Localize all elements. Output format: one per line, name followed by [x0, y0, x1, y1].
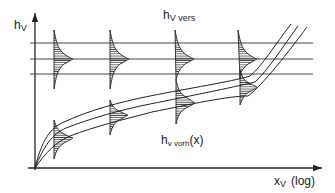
lower-distributions: [54, 70, 257, 159]
distribution-upper-3: [175, 30, 194, 80]
y-axis-label: hV: [14, 18, 27, 33]
labels: hV hV vers hv vorh(x) xV(log): [14, 8, 315, 189]
existing-height-label: hv vorh(x): [161, 133, 203, 148]
distribution-upper-4: [238, 30, 257, 78]
diagram-canvas: hV hV vers hv vorh(x) xV(log): [0, 0, 335, 193]
distribution-upper-2: [110, 30, 129, 89]
required-height-label: hV vers: [163, 8, 196, 23]
distribution-lower-4: [240, 70, 257, 105]
distribution-upper-1: [54, 30, 73, 89]
x-axis-label: xV(log): [274, 174, 315, 189]
distribution-lower-3: [176, 80, 195, 124]
